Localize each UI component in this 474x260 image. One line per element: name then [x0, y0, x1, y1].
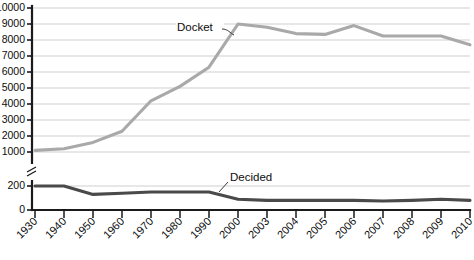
y-label-5000: 5000	[2, 81, 26, 93]
x-label-1970: 1970	[130, 215, 156, 241]
y-label-7000: 7000	[2, 49, 26, 61]
x-label-2005: 2005	[304, 215, 330, 241]
x-label-1990: 1990	[188, 215, 214, 241]
x-label-1980: 1980	[159, 215, 185, 241]
x-axis-labels: 1930 1940 1950 1960 1970 1980 1990 2000 …	[14, 215, 474, 241]
annotation-decided: Decided	[219, 171, 280, 192]
x-label-1950: 1950	[72, 215, 98, 241]
x-label-2000: 2000	[217, 215, 243, 241]
x-label-2003: 2003	[246, 215, 272, 241]
x-label-1930: 1930	[14, 215, 40, 241]
y-label-3000: 3000	[2, 113, 26, 125]
annotation-label-docket: Docket	[177, 21, 214, 33]
series-line-docket	[35, 24, 470, 150]
x-label-2007: 2007	[362, 215, 388, 241]
chart-container: 10000 9000 8000 7000 6000 5000 4000 3000…	[0, 0, 474, 260]
line-chart: 10000 9000 8000 7000 6000 5000 4000 3000…	[0, 0, 474, 260]
y-label-200: 200	[7, 179, 25, 191]
y-label-10000: 10000	[0, 1, 25, 13]
x-label-2006: 2006	[333, 215, 359, 241]
x-label-2010: 2010	[449, 215, 474, 241]
x-label-1960: 1960	[101, 215, 127, 241]
y-label-2000: 2000	[2, 129, 26, 141]
annotation-label-decided: Decided	[230, 171, 272, 183]
x-label-2009: 2009	[420, 215, 446, 241]
y-label-1000: 1000	[2, 145, 26, 157]
x-label-2008: 2008	[391, 215, 417, 241]
x-label-2004: 2004	[275, 215, 301, 241]
y-label-0: 0	[19, 203, 25, 215]
y-axis-labels: 10000 9000 8000 7000 6000 5000 4000 3000…	[0, 1, 25, 215]
y-label-4000: 4000	[2, 97, 26, 109]
y-axis-break	[27, 164, 37, 180]
y-label-6000: 6000	[2, 65, 26, 77]
y-label-9000: 9000	[2, 17, 26, 29]
annotation-docket: Docket	[176, 20, 234, 35]
x-label-1940: 1940	[43, 215, 69, 241]
series-line-decided	[35, 186, 470, 201]
y-label-8000: 8000	[2, 33, 26, 45]
gridlines-upper	[32, 8, 470, 152]
